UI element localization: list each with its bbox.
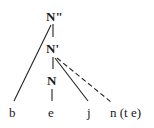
leaf-b: b <box>9 106 16 119</box>
leaf-j: j <box>87 106 91 119</box>
leaf-n: n (t e) <box>110 106 141 119</box>
leaf-e: e <box>48 106 54 119</box>
node-n-head: N <box>47 74 56 87</box>
edge-root-to-b <box>14 25 51 101</box>
node-n-double-bar: N" <box>46 10 63 23</box>
node-n-bar: N' <box>46 42 59 55</box>
